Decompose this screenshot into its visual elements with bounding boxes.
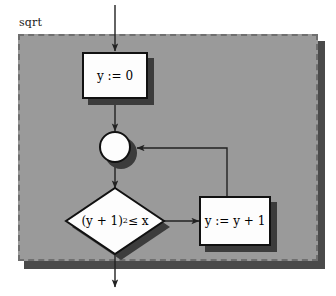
panel-label: sqrt [19,16,42,29]
flowchart-diagram: sqrt [0,0,336,296]
process-box-init[interactable]: y := 0 [82,52,148,99]
merge-node[interactable] [99,131,131,163]
process-box-increment[interactable]: y := y + 1 [199,196,271,246]
process-box-init-label: y := 0 [97,69,133,83]
decision-diamond[interactable]: (y + 1)2 ≤ x [60,186,170,260]
process-box-increment-label: y := y + 1 [205,214,266,228]
decision-diamond-body [66,188,164,254]
